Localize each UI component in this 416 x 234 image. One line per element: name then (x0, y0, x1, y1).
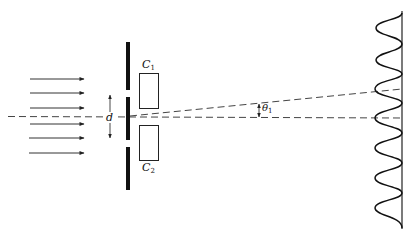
theta-sub: 1 (268, 107, 272, 115)
incident-beam-arrows (29, 79, 84, 153)
c1-sub: 1 (150, 64, 154, 72)
collimator-c2-label: C2 (142, 162, 155, 175)
central-axis-line (8, 117, 402, 119)
angle-label: θ1 (262, 103, 273, 115)
c2-sub: 2 (150, 167, 154, 175)
barrier-bottom-segment (126, 147, 130, 190)
double-slit-diagram (0, 0, 416, 234)
collimator-c2-box (140, 126, 159, 161)
slit-separation-label: d (105, 112, 114, 123)
slit-barrier (126, 42, 130, 190)
collimator-c1-box (140, 74, 159, 109)
barrier-top-segment (126, 42, 130, 90)
d-text: d (106, 111, 113, 124)
interference-pattern-curve (375, 13, 402, 228)
collimator-c1-label: C1 (142, 59, 155, 72)
barrier-middle-segment (126, 97, 130, 140)
